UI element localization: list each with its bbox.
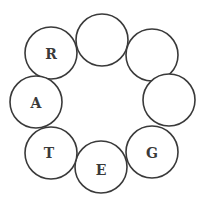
circle-g: G [126,126,178,178]
svg-text:T: T [44,145,55,161]
circle-top-right [126,29,178,81]
circle-t: T [25,127,77,179]
svg-text:A: A [30,95,43,111]
circle-top [76,14,128,66]
circle-a: A [10,76,62,128]
circle-right [143,74,195,126]
circle-e: E [75,141,127,193]
letter-ring-diagram: R G E T A [0,0,206,210]
svg-text:R: R [45,46,57,62]
circle-r: R [25,27,77,79]
svg-text:G: G [146,145,158,161]
svg-text:E: E [96,162,107,178]
